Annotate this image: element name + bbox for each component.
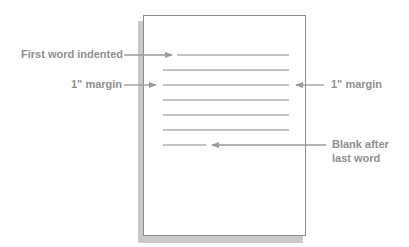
label-blank-after: Blank after (332, 138, 389, 151)
label-margin-left: 1" margin (71, 78, 122, 91)
text-lines (163, 55, 289, 145)
label-margin-right: 1" margin (331, 78, 382, 91)
label-first-word-indented: First word indented (21, 48, 123, 61)
diagram-overlay (0, 0, 409, 247)
label-last-word: last word (332, 152, 380, 165)
